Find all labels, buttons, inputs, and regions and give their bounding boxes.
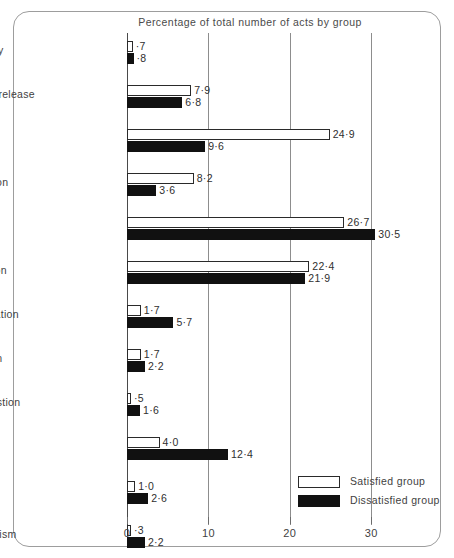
bar-dissatisfied bbox=[127, 229, 375, 240]
x-tick-mark bbox=[371, 517, 372, 524]
bar-value-label: 21·9 bbox=[308, 273, 330, 284]
bar-value-label: 22·4 bbox=[312, 261, 334, 272]
x-tick-mark bbox=[290, 517, 291, 524]
bar-satisfied bbox=[127, 173, 194, 184]
category-label: Shows solidarity bbox=[0, 44, 73, 56]
category-row: Shows solidarity·7·8 bbox=[127, 33, 442, 77]
x-tick-mark bbox=[127, 517, 128, 524]
category-label: Agrees bbox=[0, 132, 73, 144]
bar-value-label: 26·7 bbox=[347, 217, 369, 228]
bar-value-label: 1·7 bbox=[144, 349, 160, 360]
category-label: Asks for suggestion bbox=[0, 396, 73, 408]
category-row: Shows tension release7·96·8 bbox=[127, 77, 442, 121]
bar-dissatisfied bbox=[127, 185, 156, 196]
category-label: Asks for opinion bbox=[0, 352, 73, 364]
legend-item: Dissatisfied group bbox=[298, 493, 438, 510]
legend-label: Dissatisfied group bbox=[350, 494, 440, 506]
bar-value-label: 1·6 bbox=[143, 405, 159, 416]
bar-value-label: 1·7 bbox=[144, 305, 160, 316]
bar-satisfied bbox=[127, 41, 133, 52]
bar-value-label: 30·5 bbox=[378, 229, 400, 240]
bar-satisfied bbox=[127, 437, 160, 448]
x-tick-label: 30 bbox=[365, 527, 378, 539]
bar-value-label: 4·0 bbox=[163, 437, 179, 448]
bar-dissatisfied bbox=[127, 361, 145, 372]
category-label: Asks for orientation bbox=[0, 308, 73, 320]
legend-item: Satisfied group bbox=[298, 474, 438, 491]
bar-dissatisfied bbox=[127, 317, 173, 328]
bar-value-label: 9·6 bbox=[208, 141, 224, 152]
legend-label: Satisfied group bbox=[350, 475, 425, 487]
chart-legend: Satisfied groupDissatisfied group bbox=[298, 474, 438, 512]
legend-swatch-sat bbox=[298, 476, 340, 488]
bar-value-label: 24·9 bbox=[333, 129, 355, 140]
bar-dissatisfied bbox=[127, 405, 140, 416]
bar-value-label: 3·6 bbox=[159, 185, 175, 196]
chart-title: Percentage of total number of acts by gr… bbox=[60, 16, 440, 28]
bar-dissatisfied bbox=[127, 449, 228, 460]
bar-satisfied bbox=[127, 393, 131, 404]
bar-value-label: 6·8 bbox=[185, 97, 201, 108]
bar-satisfied bbox=[127, 129, 330, 140]
category-row: Asks for suggestion·51·6 bbox=[127, 385, 442, 429]
bar-satisfied bbox=[127, 217, 344, 228]
category-label: Shows tension release bbox=[0, 88, 73, 100]
x-tick-label: 10 bbox=[202, 527, 215, 539]
bar-value-label: 1·0 bbox=[138, 481, 154, 492]
bar-satisfied bbox=[127, 305, 141, 316]
legend-swatch-dis bbox=[298, 495, 340, 507]
category-label: Gives suggestion bbox=[0, 176, 73, 188]
bar-value-label: 5·7 bbox=[176, 317, 192, 328]
category-label: Gives orientation bbox=[0, 264, 73, 276]
x-axis: 0102030 bbox=[127, 525, 442, 549]
x-tick-label: 0 bbox=[124, 527, 130, 539]
bar-chart-figure: Percentage of total number of acts by gr… bbox=[0, 0, 454, 558]
bar-satisfied bbox=[127, 481, 135, 492]
bar-dissatisfied bbox=[127, 493, 148, 504]
bar-value-label: 2·2 bbox=[148, 361, 164, 372]
bar-value-label: 12·4 bbox=[231, 449, 253, 460]
category-row: Gives opinion26·730·5 bbox=[127, 209, 442, 253]
category-row: Agrees24·99·6 bbox=[127, 121, 442, 165]
bar-value-label: ·5 bbox=[134, 393, 144, 404]
bar-satisfied bbox=[127, 85, 191, 96]
category-row: Gives orientation22·421·9 bbox=[127, 253, 442, 297]
bar-dissatisfied bbox=[127, 53, 134, 64]
bar-value-label: 2·6 bbox=[151, 493, 167, 504]
category-row: Asks for orientation1·75·7 bbox=[127, 297, 442, 341]
category-label: Shows antagonism bbox=[0, 528, 73, 540]
bar-dissatisfied bbox=[127, 141, 205, 152]
bar-satisfied bbox=[127, 261, 309, 272]
bar-value-label: ·7 bbox=[136, 41, 146, 52]
category-label: Shows tension bbox=[0, 484, 73, 496]
bar-value-label: 7·9 bbox=[194, 85, 210, 96]
category-row: Gives suggestion8·23·6 bbox=[127, 165, 442, 209]
bar-dissatisfied bbox=[127, 273, 305, 284]
bar-value-label: ·8 bbox=[137, 53, 147, 64]
bar-value-label: 8·2 bbox=[197, 173, 213, 184]
x-tick-label: 20 bbox=[283, 527, 296, 539]
x-tick-mark bbox=[208, 517, 209, 524]
plot-area: Shows solidarity·7·8Shows tension releas… bbox=[127, 33, 442, 525]
bar-satisfied bbox=[127, 349, 141, 360]
category-row: Asks for opinion1·72·2 bbox=[127, 341, 442, 385]
category-label: Gives opinion bbox=[0, 220, 73, 232]
category-label: Disagrees bbox=[0, 440, 73, 452]
bar-dissatisfied bbox=[127, 97, 182, 108]
category-row: Disagrees4·012·4 bbox=[127, 429, 442, 473]
